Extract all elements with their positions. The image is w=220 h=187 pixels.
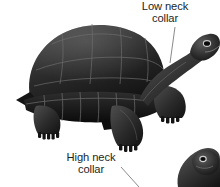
tortoise-head [190, 34, 220, 61]
specimen-dome-tortoise [16, 24, 220, 152]
figure-root: Low neck collar High neck collar [0, 0, 220, 187]
label-low-neck-collar-line1: Low neck [142, 0, 188, 12]
label-low-neck-collar-line2: collar [131, 13, 199, 25]
specimen-saddleback-head [177, 148, 220, 187]
label-low-neck-collar: Low neck collar [131, 1, 199, 24]
label-high-neck-collar-line1: High neck [67, 151, 116, 163]
tortoise-eye [203, 41, 210, 47]
saddleback-tortoise-eye [200, 156, 206, 161]
label-high-neck-collar-line2: collar [56, 164, 126, 176]
label-high-neck-collar: High neck collar [56, 152, 126, 175]
leader-line-low-neck-collar [170, 27, 175, 63]
